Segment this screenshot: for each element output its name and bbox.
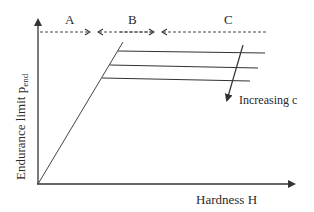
plateau-line-3 xyxy=(102,78,250,81)
region-c-label: C xyxy=(224,12,233,27)
plateau-line-2 xyxy=(110,65,258,68)
increasing-c-arrow xyxy=(227,45,243,100)
endurance-hardness-diagram: A B C Increasing c Endurance limit pend … xyxy=(0,0,314,212)
increasing-c-label: Increasing c xyxy=(239,93,297,107)
region-a-label: A xyxy=(65,12,75,27)
region-b-label: B xyxy=(128,12,137,27)
y-axis-label: Endurance limit pend xyxy=(13,73,30,180)
x-axis-label: Hardness H xyxy=(196,192,257,207)
y-axis-label-subscript: end xyxy=(20,73,30,86)
plateau-line-1 xyxy=(118,51,265,53)
rising-line xyxy=(38,42,123,184)
y-axis-label-main: Endurance limit p xyxy=(13,87,28,180)
